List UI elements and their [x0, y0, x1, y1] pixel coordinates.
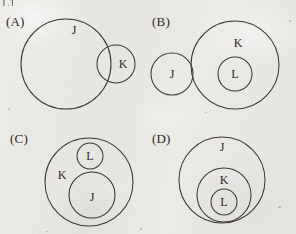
- panel-tag-a: (A): [6, 14, 25, 30]
- panel-tag-d: (D): [152, 131, 171, 147]
- set-circle-k: [191, 21, 279, 109]
- panel-tag-c: (C): [10, 131, 28, 147]
- set-label-l: L: [231, 67, 238, 82]
- panel-tag-b: (B): [152, 14, 170, 30]
- set-label-j: J: [90, 190, 95, 205]
- set-label-k: K: [119, 57, 128, 72]
- set-label-k: K: [220, 173, 229, 188]
- set-label-j: J: [220, 140, 225, 155]
- set-circle-k: [97, 45, 135, 83]
- set-label-l: L: [220, 195, 227, 210]
- set-label-l: L: [86, 149, 93, 164]
- set-label-k: K: [58, 168, 67, 183]
- set-label-k: K: [234, 36, 243, 51]
- euler-diagram-figure: [0, 0, 296, 234]
- set-label-j: J: [170, 67, 175, 82]
- diagram-svg: [0, 0, 296, 234]
- set-label-j: J: [72, 23, 77, 38]
- cropped-top-text: L1: [2, 0, 15, 6]
